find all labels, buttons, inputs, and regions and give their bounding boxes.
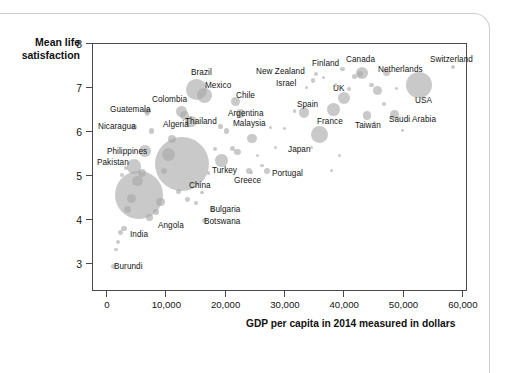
bubble-marker-turkey xyxy=(215,154,228,167)
bubble-marker xyxy=(234,149,240,155)
point-label-malaysia: Malaysia xyxy=(233,120,266,128)
point-label-japan: Japan xyxy=(288,146,311,154)
point-label-turkey: Turkey xyxy=(212,167,237,175)
bubble-marker-finland xyxy=(340,67,344,71)
point-label-finland: Finland xyxy=(312,60,339,68)
x-tick-0: 0 xyxy=(106,291,107,297)
point-label-saudi-arabia: Saudi Arabia xyxy=(389,116,436,124)
point-label-israel: Israel xyxy=(276,80,296,88)
y-tick-label: 5 xyxy=(76,170,82,182)
point-label-philippines: Philippines xyxy=(107,148,147,156)
bubble-marker xyxy=(338,154,341,157)
y-axis-title: Mean life satisfaction xyxy=(6,36,80,62)
bubble-marker-malaysia xyxy=(247,134,257,144)
x-tick-label: 0 xyxy=(104,299,109,310)
x-tick-30000: 30,000 xyxy=(284,291,285,297)
bubble-marker xyxy=(369,83,373,87)
point-label-argentina: Argentina xyxy=(228,110,264,118)
point-label-taiwan: Taiwan xyxy=(355,122,381,130)
bubble-marker xyxy=(224,128,229,133)
y-axis-title-line1: Mean life xyxy=(6,36,80,49)
point-label-india: India xyxy=(130,231,148,239)
point-label-greece: Greece xyxy=(234,177,261,185)
point-label-thailand: Thailand xyxy=(185,118,217,126)
bubble-marker-angola xyxy=(146,214,153,221)
point-label-burundi: Burundi xyxy=(114,263,143,271)
bubble-marker xyxy=(118,230,123,235)
y-tick-3: 3 xyxy=(86,263,92,264)
y-tick-5: 5 xyxy=(86,175,92,176)
x-tick-label: 10,000 xyxy=(152,299,181,310)
bubble-marker xyxy=(185,197,190,202)
bubble-marker-taiwan xyxy=(363,111,372,120)
point-label-netherlands: Netherlands xyxy=(378,66,423,74)
point-label-botswana: Botswana xyxy=(204,218,240,226)
y-tick-8: 8 xyxy=(86,43,92,44)
point-label-pakistan: Pakistan xyxy=(97,159,129,167)
point-label-chile: Chile xyxy=(236,92,255,100)
bubble-marker xyxy=(293,109,297,113)
bubble-marker-india xyxy=(115,171,163,219)
point-label-angola: Angola xyxy=(158,222,184,230)
bubble-marker xyxy=(116,240,120,244)
bubble-marker xyxy=(200,191,203,194)
bubble-marker-uk xyxy=(338,92,350,104)
bubble-marker-greece xyxy=(246,168,252,174)
bubble-marker xyxy=(260,164,263,167)
point-label-uk: UK xyxy=(333,85,344,93)
x-tick-label: 30,000 xyxy=(270,299,299,310)
x-axis-title: GDP per capita in 2014 measured in dolla… xyxy=(246,318,455,329)
x-tick-40000: 40,000 xyxy=(343,291,344,297)
point-label-bulgaria: Bulgaria xyxy=(210,206,240,214)
bubble-marker xyxy=(149,128,154,133)
bubble-marker xyxy=(373,86,382,95)
bubble-marker-canada xyxy=(356,67,368,79)
y-tick-7: 7 xyxy=(86,87,92,88)
bubble-marker xyxy=(382,102,386,106)
y-tick-label: 7 xyxy=(76,82,82,94)
x-tick-label: 50,000 xyxy=(389,299,418,310)
card-top-divider xyxy=(0,13,455,14)
y-tick-label: 3 xyxy=(76,258,82,270)
x-tick-label: 60,000 xyxy=(448,299,477,310)
y-tick-6: 6 xyxy=(86,131,92,132)
x-tick-label: 20,000 xyxy=(211,299,240,310)
x-tick-50000: 50,000 xyxy=(403,291,404,297)
point-label-canada: Canada xyxy=(346,56,375,64)
bubble-marker xyxy=(218,124,222,128)
x-tick-label: 40,000 xyxy=(330,299,359,310)
point-label-portugal: Portugal xyxy=(272,170,303,178)
bubble-marker-switzerland xyxy=(451,65,455,69)
point-label-spain: Spain xyxy=(297,101,318,109)
y-tick-label: 6 xyxy=(76,126,82,138)
point-label-colombia: Colombia xyxy=(152,96,187,104)
point-label-nicaragua: Nicaragua xyxy=(98,123,136,131)
point-label-new-zealand: New Zealand xyxy=(256,68,305,76)
x-tick-10000: 10,000 xyxy=(165,291,166,297)
y-axis-title-line2: satisfaction xyxy=(6,49,80,62)
y-tick-label: 4 xyxy=(76,214,82,226)
point-label-algeria: Algeria xyxy=(163,121,189,129)
point-label-usa: USA xyxy=(415,97,432,105)
point-label-switzerland: Switzerland xyxy=(430,56,473,64)
bubble-marker xyxy=(401,129,404,132)
bubble-marker-japan xyxy=(311,126,328,143)
point-label-guatemala: Guatemala xyxy=(110,106,151,114)
point-label-france: France xyxy=(317,118,343,126)
y-tick-4: 4 xyxy=(86,219,92,220)
y-tick-label: 8 xyxy=(76,38,82,50)
point-label-mexico: Mexico xyxy=(205,82,231,90)
point-label-china: China xyxy=(189,182,211,190)
x-tick-60000: 60,000 xyxy=(462,291,463,297)
point-label-brazil: Brazil xyxy=(191,69,212,77)
x-tick-20000: 20,000 xyxy=(225,291,226,297)
